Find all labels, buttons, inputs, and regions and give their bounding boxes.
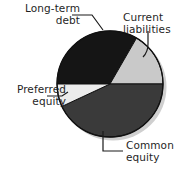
slice-label-preferred-equity-line2: equity: [1, 96, 66, 108]
slice-label-preferred-equity: Preferred equity: [1, 84, 66, 107]
slice-label-long-term-debt-line1: Long-term: [6, 3, 80, 15]
slice-label-current-liabilities-line2: liabilities: [123, 24, 187, 36]
slice-label-long-term-debt: Long-term debt: [6, 3, 80, 26]
slice-label-long-term-debt-line2: debt: [6, 15, 80, 27]
slice-label-common-equity-line2: equity: [126, 152, 188, 164]
slice-label-preferred-equity-line1: Preferred: [1, 84, 66, 96]
slice-label-current-liabilities: Current liabilities: [123, 12, 187, 35]
slice-label-current-liabilities-line1: Current: [123, 12, 187, 24]
slice-label-common-equity-line1: Common: [126, 140, 188, 152]
slice-label-common-equity: Common equity: [126, 140, 188, 163]
pie-chart-figure: Long-term debt Current liabilities Prefe…: [0, 0, 188, 172]
